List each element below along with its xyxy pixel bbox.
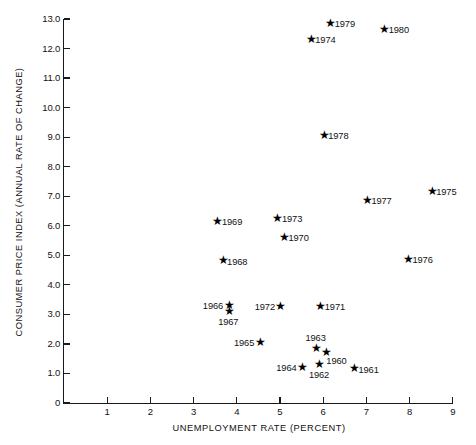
- star-marker-icon: ★: [306, 33, 316, 45]
- star-marker-icon: ★: [212, 215, 222, 227]
- data-point-label: 1973: [282, 214, 302, 224]
- y-tick-label: 2.0: [28, 338, 60, 349]
- data-point-label: 1967: [218, 317, 238, 327]
- y-tick-label: 11.0: [28, 72, 60, 83]
- data-point-label: 1977: [371, 196, 391, 206]
- x-tick-mark: [236, 397, 237, 403]
- data-point-label: 1966: [203, 301, 223, 311]
- data-point-label: 1970: [288, 233, 308, 243]
- data-point-label: 1972: [255, 302, 275, 312]
- y-tick-label: 8.0: [28, 161, 60, 172]
- scatter-plot-figure: 01.02.03.04.05.06.07.08.09.010.011.012.0…: [0, 0, 476, 445]
- y-axis-title: CONSUMER PRICE INDEX (ANNUAL RATE OF CHA…: [14, 0, 28, 404]
- x-axis-line: [63, 403, 453, 404]
- y-tick-mark: [64, 373, 70, 374]
- y-tick-mark: [64, 48, 70, 49]
- x-axis-title: UNEMPLOYMENT RATE (PERCENT): [64, 423, 454, 433]
- star-marker-icon: ★: [362, 194, 372, 206]
- star-marker-icon: ★: [379, 23, 389, 35]
- data-point-label: 1980: [389, 25, 409, 35]
- y-tick-label: 3.0: [28, 308, 60, 319]
- y-tick-mark: [64, 18, 70, 19]
- x-tick-mark: [107, 397, 108, 403]
- x-tick-label: 4: [227, 406, 247, 417]
- y-tick-label: 10.0: [28, 102, 60, 113]
- y-tick-mark: [64, 402, 70, 403]
- y-tick-label: 12.0: [28, 43, 60, 54]
- y-tick-mark: [64, 284, 70, 285]
- x-tick-label: 1: [97, 406, 117, 417]
- data-point-label: 1965: [234, 338, 254, 348]
- x-tick-label: 2: [140, 406, 160, 417]
- star-marker-icon: ★: [255, 336, 265, 348]
- star-marker-icon: ★: [218, 254, 228, 266]
- x-tick-mark: [409, 397, 410, 403]
- data-point-label: 1971: [325, 302, 345, 312]
- data-point-label: 1964: [276, 363, 296, 373]
- star-marker-icon: ★: [297, 361, 307, 373]
- x-tick-mark: [150, 397, 151, 403]
- data-point-label: 1974: [315, 35, 335, 45]
- data-point-label: 1978: [328, 131, 348, 141]
- y-tick-mark: [64, 225, 70, 226]
- y-tick-label: 5.0: [28, 249, 60, 260]
- x-tick-label: 7: [356, 406, 376, 417]
- data-point-label: 1961: [358, 365, 378, 375]
- x-tick-label: 3: [184, 406, 204, 417]
- star-marker-icon: ★: [325, 17, 335, 29]
- y-tick-label: 13.0: [28, 13, 60, 24]
- star-marker-icon: ★: [349, 362, 359, 374]
- x-tick-mark: [323, 397, 324, 403]
- x-tick-label: 9: [443, 406, 463, 417]
- data-point-label: 1968: [227, 257, 247, 267]
- star-marker-icon: ★: [224, 305, 234, 317]
- y-tick-mark: [64, 196, 70, 197]
- x-tick-mark: [452, 397, 453, 403]
- y-tick-mark: [64, 255, 70, 256]
- star-marker-icon: ★: [272, 212, 282, 224]
- data-point-label: 1962: [309, 370, 329, 380]
- y-tick-mark: [64, 166, 70, 167]
- star-marker-icon: ★: [224, 299, 234, 311]
- data-point-label: 1960: [326, 356, 346, 366]
- x-tick-mark: [193, 397, 194, 403]
- data-point-label: 1976: [412, 255, 432, 265]
- y-tick-label: 4.0: [28, 279, 60, 290]
- y-tick-label: 6.0: [28, 220, 60, 231]
- y-tick-label: 7.0: [28, 190, 60, 201]
- star-marker-icon: ★: [279, 231, 289, 243]
- x-tick-label: 5: [270, 406, 290, 417]
- y-tick-mark: [64, 137, 70, 138]
- data-point-label: 1969: [222, 217, 242, 227]
- y-tick-label: 1.0: [28, 367, 60, 378]
- star-marker-icon: ★: [314, 358, 324, 370]
- star-marker-icon: ★: [427, 185, 437, 197]
- star-marker-icon: ★: [311, 342, 321, 354]
- x-tick-mark: [366, 397, 367, 403]
- x-tick-mark: [279, 397, 280, 403]
- data-point-label: 1963: [305, 333, 325, 343]
- y-tick-mark: [64, 314, 70, 315]
- star-marker-icon: ★: [319, 129, 329, 141]
- star-marker-icon: ★: [315, 300, 325, 312]
- y-tick-label: 0: [28, 397, 60, 408]
- y-tick-mark: [64, 107, 70, 108]
- data-point-label: 1979: [335, 19, 355, 29]
- y-tick-label: 9.0: [28, 131, 60, 142]
- x-tick-label: 6: [313, 406, 333, 417]
- star-marker-icon: ★: [275, 300, 285, 312]
- star-marker-icon: ★: [403, 253, 413, 265]
- y-tick-mark: [64, 343, 70, 344]
- x-tick-label: 8: [400, 406, 420, 417]
- data-point-label: 1975: [436, 187, 456, 197]
- y-tick-mark: [64, 77, 70, 78]
